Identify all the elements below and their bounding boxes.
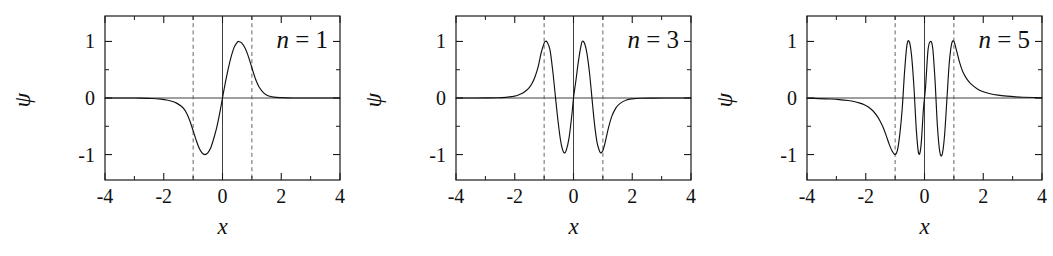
y-tick-label: -1 (780, 144, 797, 166)
plot-canvas: -4-202410-1xψn = 1 (0, 0, 351, 256)
y-tick-label: 1 (436, 30, 446, 52)
x-tick-label: -2 (155, 185, 172, 207)
plot-panel-3: -4-202410-1xψn = 5 (702, 0, 1053, 256)
plot-panel-2: -4-202410-1xψn = 3 (351, 0, 702, 256)
x-tick-label: 0 (569, 185, 579, 207)
x-axis-label: x (918, 214, 930, 239)
x-tick-label: 4 (335, 185, 345, 207)
x-tick-label: 4 (1037, 185, 1047, 207)
x-tick-label: -4 (799, 185, 816, 207)
x-tick-label: -4 (97, 185, 114, 207)
x-axis-label: x (567, 214, 579, 239)
x-tick-label: -4 (448, 185, 465, 207)
wavefunction-figure: -4-202410-1xψn = 1-4-202410-1xψn = 3-4-2… (0, 0, 1053, 256)
x-tick-label: -2 (506, 185, 523, 207)
quantum-number-annotation: n = 1 (276, 26, 328, 53)
x-tick-label: 2 (627, 185, 637, 207)
x-tick-label: 4 (686, 185, 696, 207)
x-tick-label: 0 (920, 185, 930, 207)
y-tick-label: 0 (436, 87, 446, 109)
plot-canvas: -4-202410-1xψn = 3 (351, 0, 702, 256)
y-tick-label: 0 (85, 87, 95, 109)
plot-panel-1: -4-202410-1xψn = 1 (0, 0, 351, 256)
y-axis-label: ψ (361, 92, 386, 107)
y-axis-label: ψ (10, 92, 35, 107)
y-tick-label: 0 (787, 87, 797, 109)
y-axis-label: ψ (712, 92, 737, 107)
x-tick-label: 0 (218, 185, 228, 207)
x-tick-label: 2 (978, 185, 988, 207)
x-axis-label: x (216, 214, 228, 239)
y-tick-label: 1 (85, 30, 95, 52)
quantum-number-annotation: n = 5 (978, 26, 1030, 53)
x-tick-label: -2 (857, 185, 874, 207)
y-tick-label: 1 (787, 30, 797, 52)
y-tick-label: -1 (429, 144, 446, 166)
y-tick-label: -1 (78, 144, 95, 166)
plot-canvas: -4-202410-1xψn = 5 (702, 0, 1053, 256)
quantum-number-annotation: n = 3 (627, 26, 679, 53)
x-tick-label: 2 (276, 185, 286, 207)
